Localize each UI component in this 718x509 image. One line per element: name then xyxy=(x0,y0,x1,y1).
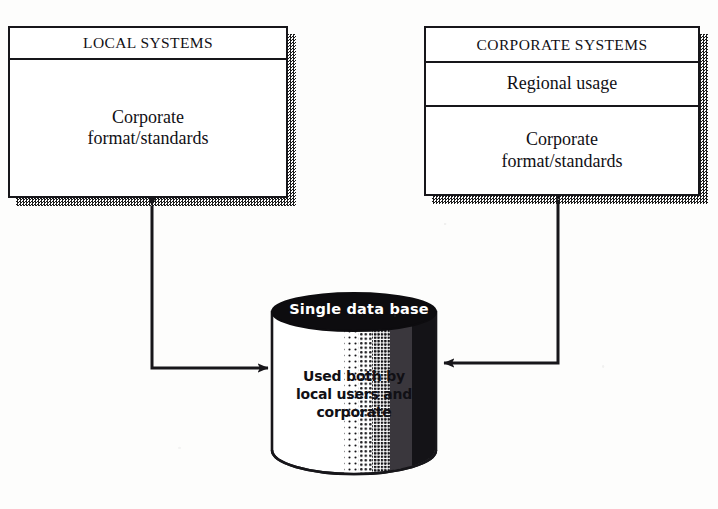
local-systems-database-link[interactable] xyxy=(152,206,268,368)
corporate-systems-title: CORPORATE SYSTEMS xyxy=(477,36,648,54)
local-systems-title: LOCAL SYSTEMS xyxy=(83,34,213,52)
diagram-canvas: LOCAL SYSTEMS Corporateformat/standards … xyxy=(0,0,718,509)
local-systems-body-text: Corporateformat/standards xyxy=(88,107,209,149)
local-systems-box[interactable]: LOCAL SYSTEMS Corporateformat/standards xyxy=(8,26,288,198)
local-systems-body-row: Corporateformat/standards xyxy=(10,58,286,196)
corporate-systems-regional-usage-row: Regional usage xyxy=(426,61,698,105)
single-data-base-cylinder[interactable] xyxy=(272,293,436,480)
corporate-link-path xyxy=(444,200,558,363)
local-systems-title-row: LOCAL SYSTEMS xyxy=(10,28,286,58)
corporate-systems-title-row: CORPORATE SYSTEMS xyxy=(426,28,698,61)
corporate-systems-format-row: Corporateformat/standards xyxy=(426,105,698,194)
corporate-systems-box[interactable]: CORPORATE SYSTEMS Regional usage Corpora… xyxy=(424,26,700,196)
corporate-systems-database-link[interactable] xyxy=(444,200,558,363)
local-link-path xyxy=(152,206,268,368)
corporate-systems-regional-usage-text: Regional usage xyxy=(507,73,617,94)
corporate-systems-format-text: Corporateformat/standards xyxy=(502,129,623,171)
cylinder-top-cap xyxy=(272,293,436,331)
